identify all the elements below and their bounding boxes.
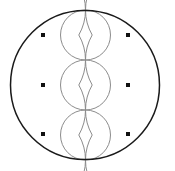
inner-circle-group: [61, 10, 111, 160]
arc-right-top: [79, 0, 86, 35]
petal-arc-group: [79, 0, 92, 171]
geometric-figure: [0, 0, 175, 171]
arc-right-bottom: [79, 135, 86, 171]
node-bottom-left: [41, 132, 45, 136]
figure-canvas: [0, 0, 175, 171]
bottom-circle: [61, 110, 111, 160]
outer-circle-group: [11, 11, 160, 160]
arc-left-bottom: [86, 135, 93, 171]
middle-circle: [61, 60, 111, 110]
node-middle-left: [41, 83, 45, 87]
node-marker-group: [41, 33, 130, 136]
top-circle: [61, 10, 111, 60]
bounding-circle: [11, 11, 160, 160]
node-bottom-right: [126, 132, 130, 136]
node-middle-right: [126, 83, 130, 87]
node-top-left: [41, 33, 45, 37]
arc-left-top: [86, 0, 93, 35]
node-top-right: [126, 33, 130, 37]
